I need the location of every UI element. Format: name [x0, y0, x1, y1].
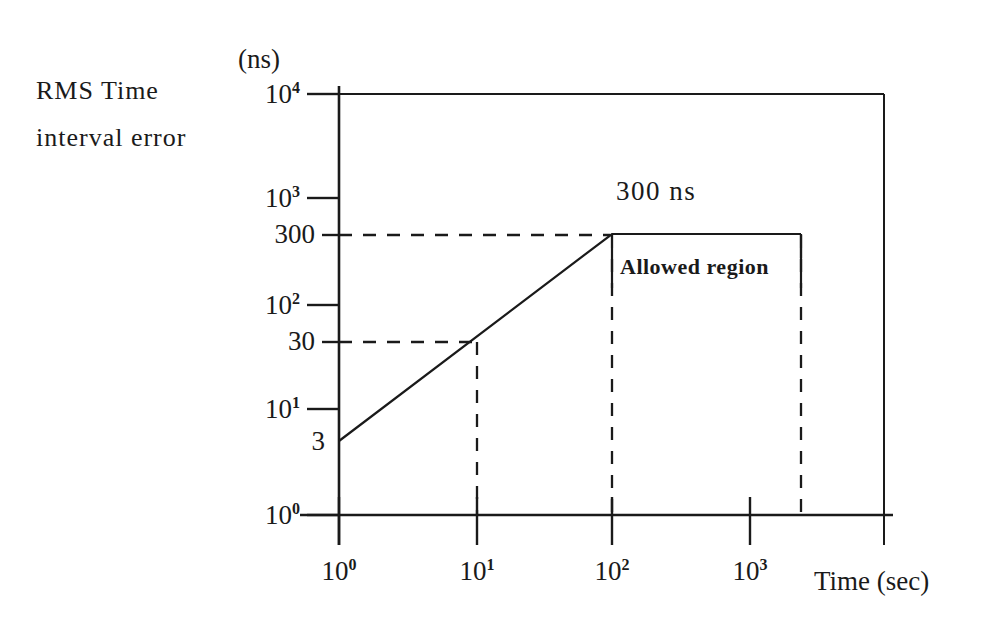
y-tick-label-10e2: 102: [186, 291, 300, 319]
y-tick-label-10e0-mantissa: 10: [265, 500, 292, 530]
y-tick-label-3-mantissa: 3: [312, 426, 326, 456]
y-axis-title-line1: RMS Time: [36, 78, 159, 104]
y-tick-label-10e4-mantissa: 10: [265, 79, 292, 109]
x-tick-label-10e3: 103: [700, 557, 800, 585]
x-tick-label-10e1-mantissa: 10: [460, 556, 487, 586]
x-tick-label-10e0-mantissa: 10: [322, 556, 349, 586]
y-tick-label-10e4-exponent: 4: [292, 79, 300, 96]
y-tick-label-10e0-exponent: 0: [292, 500, 300, 517]
x-axis-title: Time (sec): [814, 568, 929, 595]
allowed-region-annotation: Allowed region: [620, 256, 769, 278]
y-axis-title-line2: interval error: [36, 125, 186, 151]
x-tick-label-10e0: 100: [289, 557, 389, 585]
x-axis-ticks: [339, 497, 750, 545]
y-tick-label-10e1-mantissa: 10: [265, 394, 292, 424]
y-tick-label-10e1: 101: [186, 395, 300, 423]
y-tick-label-30-mantissa: 30: [288, 326, 315, 356]
x-tick-label-10e1-exponent: 1: [487, 556, 495, 573]
y-tick-label-10e2-mantissa: 10: [265, 290, 292, 320]
x-tick-label-10e1: 101: [427, 557, 527, 585]
x-tick-label-10e2: 102: [562, 557, 662, 585]
y-tick-label-10e1-exponent: 1: [292, 394, 300, 411]
limit-value-annotation: 300 ns: [616, 178, 696, 205]
x-tick-label-10e3-exponent: 3: [760, 556, 768, 573]
x-tick-label-10e2-mantissa: 10: [595, 556, 622, 586]
y-tick-label-10e4: 104: [186, 80, 300, 108]
y-tick-label-3: 3: [186, 427, 325, 455]
x-tick-label-10e3-mantissa: 10: [733, 556, 760, 586]
y-axis-unit-label: (ns): [238, 46, 280, 73]
y-tick-label-10e3-exponent: 3: [292, 183, 300, 200]
chart-figure: (ns) RMS Time interval error 104 103 300…: [0, 0, 997, 629]
y-tick-label-300: 300: [186, 220, 315, 248]
y-tick-label-10e2-exponent: 2: [292, 290, 300, 307]
y-tick-label-10e3-mantissa: 10: [265, 183, 292, 213]
x-tick-label-10e0-exponent: 0: [349, 556, 357, 573]
y-tick-label-300-mantissa: 300: [275, 219, 316, 249]
y-tick-label-10e0: 100: [186, 501, 300, 529]
y-tick-label-30: 30: [186, 327, 315, 355]
y-tick-label-10e3: 103: [186, 184, 300, 212]
x-tick-label-10e2-exponent: 2: [622, 556, 630, 573]
